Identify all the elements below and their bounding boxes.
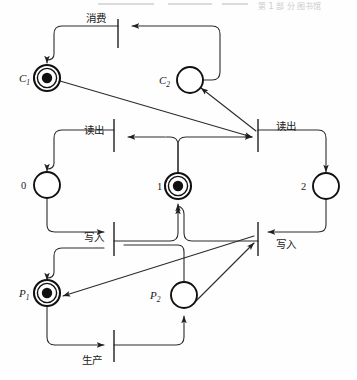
transition-consume-label: 消费: [86, 12, 107, 24]
transition-produce-label: 生产: [82, 354, 103, 366]
place-P2-label: P2: [149, 289, 161, 304]
place-buffer-1-label: 1: [157, 181, 162, 192]
transition-read-right-label: 读出: [276, 120, 297, 132]
arc-c2-to-consume: [132, 26, 220, 80]
place-C1-token: [42, 73, 52, 83]
arc-b0-to-writeleft: [47, 199, 104, 232]
place-P1[interactable]: [34, 280, 60, 306]
arc-b1-to-readleft: [128, 137, 178, 173]
arc-consume-to-c1: [47, 26, 118, 63]
place-C2-label: C2: [159, 74, 170, 89]
place-P1-token: [42, 288, 52, 298]
arc-writeright-to-b1: [178, 204, 258, 241]
place-buffer-2[interactable]: [313, 173, 339, 199]
place-C1-label: C1: [19, 72, 30, 87]
arc-produce-to-p2: [114, 316, 184, 345]
place-buffer-0[interactable]: [34, 172, 60, 198]
place-C1[interactable]: [34, 65, 60, 91]
arc-b2-to-writeright: [268, 199, 326, 232]
place-buffer-0-label: 0: [21, 180, 26, 191]
place-P2[interactable]: [171, 282, 197, 308]
arc-writeleft-to-p1-route: [47, 248, 104, 280]
arc-writeleft-to-b1: [114, 207, 178, 241]
transition-write-right-label: 写入: [276, 238, 297, 250]
arc-b1-to-readright-path: [178, 137, 252, 173]
place-C2[interactable]: [177, 67, 203, 93]
transition-write-left-label: 写入: [84, 231, 105, 243]
place-P1-label: P1: [18, 287, 29, 302]
place-buffer-1-token: [173, 181, 183, 191]
figure-container: 第 1 部 分 图书馆 消费: [0, 0, 357, 380]
place-buffer-2-label: 2: [301, 181, 306, 192]
arc-readright-to-b2: [258, 130, 326, 172]
arc-p2-upper-stem: [124, 245, 184, 282]
arc-p1-to-produce: [47, 307, 104, 345]
transition-read-left-label: 读出: [84, 124, 105, 136]
place-buffer-1[interactable]: [165, 173, 191, 199]
arc-readleft-to-b0: [47, 130, 114, 171]
petri-net-diagram: 消费: [0, 0, 357, 380]
